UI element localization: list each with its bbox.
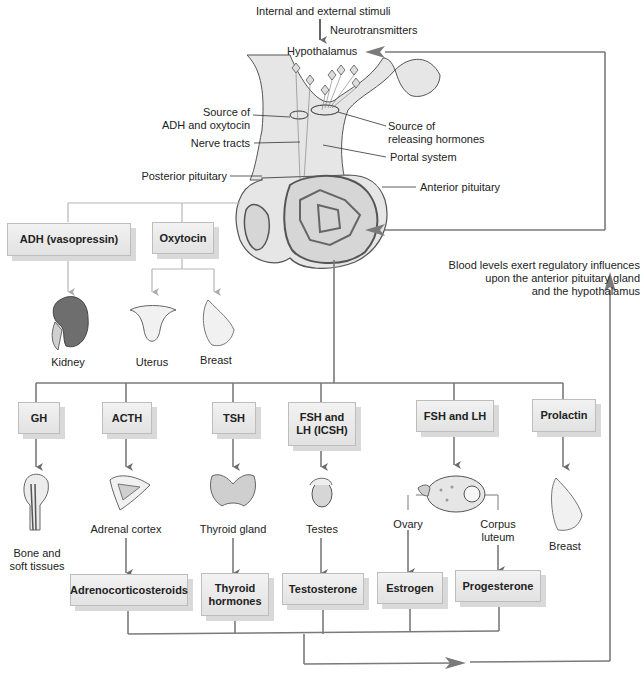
anterior-pituitary-label: Anterior pituitary (420, 181, 500, 194)
thyroid-icon (210, 475, 255, 506)
kidney-icon (52, 297, 88, 350)
tsh-box: TSH (212, 402, 256, 434)
adrenal-label: Adrenal cortex (88, 523, 164, 536)
adrenocorticosteroids-box: Adrenocorticosteroids (70, 574, 188, 606)
prolactin-box: Prolactin (532, 399, 596, 432)
testosterone-box: Testosterone (282, 573, 364, 605)
hypothalamus-label: Hypothalamus (287, 45, 357, 58)
testes-icon (310, 478, 332, 507)
portal-system-label: Portal system (390, 151, 457, 164)
breast-label: Breast (196, 354, 236, 367)
adrenal-icon (110, 476, 150, 510)
uterus-icon (130, 306, 176, 342)
progesterone-box: Progesterone (455, 570, 541, 602)
estrogen-box: Estrogen (377, 572, 443, 604)
breast-icon-2 (552, 478, 582, 530)
nerve-tracts-label: Nerve tracts (150, 137, 250, 150)
adh-box: ADH (vasopressin) (7, 223, 131, 256)
fsh-lh-box: FSH and LH (416, 400, 494, 432)
source-adh-label: Source ofADH and oxytocin (150, 106, 250, 132)
oxytocin-box: Oxytocin (152, 222, 214, 254)
acth-box: ACTH (102, 402, 152, 434)
bone-label: Bone andsoft tissues (6, 547, 68, 573)
breast-label-2: Breast (545, 540, 585, 553)
kidney-label: Kidney (48, 356, 88, 369)
bone-icon (24, 474, 48, 530)
feedback-label: Blood levels exert regulatory influences… (440, 259, 640, 298)
fsh-lh-icsh-box: FSH andLH (ICSH) (288, 402, 356, 446)
source-releasing-label: Source ofreleasing hormones (388, 120, 485, 146)
uterus-label: Uterus (132, 356, 172, 369)
ovary-label: Ovary (390, 518, 426, 531)
breast-icon (203, 300, 234, 346)
posterior-pituitary-label: Posterior pituitary (110, 170, 227, 183)
stimuli-label: Internal and external stimuli (256, 5, 391, 18)
thyroid-hormones-box: Thyroidhormones (201, 573, 269, 616)
thyroid-label: Thyroid gland (197, 523, 269, 536)
ovary-icon (418, 476, 485, 512)
corpus-luteum-label: Corpusluteum (478, 518, 518, 544)
neurotransmitters-label: Neurotransmitters (330, 24, 417, 37)
gh-box: GH (18, 402, 60, 434)
testes-label: Testes (300, 523, 344, 536)
